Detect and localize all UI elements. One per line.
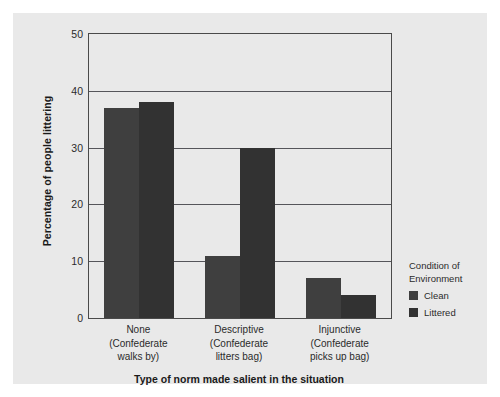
bar-clean-0 (104, 108, 139, 318)
x-group-label-2: Injunctive(Confederatepicks up bag) (289, 323, 390, 364)
x-group-label-sub2: walks by) (88, 350, 189, 364)
x-group-label-0: None(Confederatewalks by) (88, 323, 189, 364)
y-axis-title: Percentage of people littering (41, 71, 53, 271)
legend-title: Condition of Environment (409, 260, 487, 285)
bar-clean-2 (306, 278, 341, 318)
legend-item-clean[interactable]: Clean (409, 290, 487, 301)
legend-swatch-icon (409, 308, 418, 317)
bar-littered-1 (240, 148, 275, 318)
plot-area: 01020304050 (88, 33, 392, 319)
y-tick-label: 10 (71, 255, 83, 267)
x-group-label-sub2: litters bag) (189, 350, 290, 364)
y-tick-label: 40 (71, 85, 83, 97)
legend-item-littered[interactable]: Littered (409, 307, 487, 318)
x-group-label-sub1: (Confederate (88, 337, 189, 351)
x-axis-title: Type of norm made salient in the situati… (88, 373, 390, 385)
y-tick-label: 20 (71, 198, 83, 210)
x-group-label-1: Descriptive(Confederatelitters bag) (189, 323, 290, 364)
legend-title-line2: Environment (409, 273, 462, 284)
y-tick-label: 30 (71, 142, 83, 154)
legend: Condition of Environment CleanLittered (409, 260, 487, 324)
x-group-label-sub2: picks up bag) (289, 350, 390, 364)
x-group-label-main: Injunctive (289, 323, 390, 337)
legend-title-line1: Condition of (409, 260, 460, 271)
legend-items: CleanLittered (409, 290, 487, 318)
legend-item-label: Clean (424, 290, 449, 301)
x-group-label-main: None (88, 323, 189, 337)
x-group-label-sub1: (Confederate (289, 337, 390, 351)
x-group-label-main: Descriptive (189, 323, 290, 337)
bar-clean-1 (205, 256, 240, 318)
legend-swatch-icon (409, 291, 418, 300)
legend-item-label: Littered (424, 307, 456, 318)
y-tick-label: 0 (77, 312, 83, 324)
bar-littered-2 (341, 295, 376, 318)
chart-figure: Percentage of people littering 010203040… (13, 13, 487, 384)
bar-littered-0 (139, 102, 174, 318)
x-group-label-sub1: (Confederate (189, 337, 290, 351)
bars (89, 34, 391, 318)
y-tick-label: 50 (71, 28, 83, 40)
